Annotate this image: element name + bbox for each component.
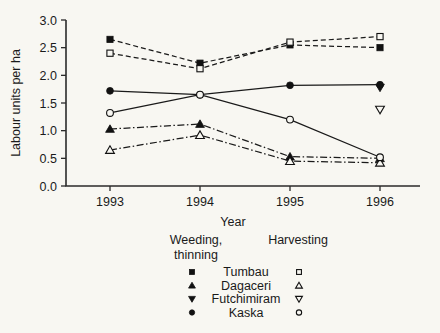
marker-circle-filled — [107, 87, 114, 94]
y-tick-label: 2.0 — [40, 69, 57, 83]
legend-group-harvesting: Harvesting — [268, 233, 328, 247]
legend-group-weeding-line2: thinning — [174, 248, 218, 262]
x-tick-label: 1993 — [96, 195, 124, 209]
series-tumbau-weeding — [107, 36, 383, 66]
x-tick-label: 1995 — [276, 195, 304, 209]
legend-label-futchimiram: Futchimiram — [212, 292, 281, 306]
marker-square-open — [377, 34, 383, 40]
legend-row: Dagaceri — [189, 279, 303, 293]
marker-circle-open — [287, 116, 294, 123]
chart-container: 0.00.51.01.52.02.53.01993199419951996Yea… — [0, 0, 440, 333]
series-path — [110, 124, 380, 158]
legend-row: Tumbau — [190, 265, 302, 279]
marker-triangle-up-open — [296, 282, 303, 288]
y-tick-label: 0.0 — [40, 180, 57, 194]
marker-triangle-down-open — [376, 106, 385, 114]
marker-circle-open — [296, 310, 301, 315]
series-path — [110, 135, 380, 163]
legend-group-weeding-line1: Weeding, — [170, 233, 223, 247]
series-path — [110, 85, 380, 95]
labour-units-line-chart: 0.00.51.01.52.02.53.01993199419951996Yea… — [0, 0, 440, 333]
series-layer — [106, 34, 385, 167]
marker-circle-filled — [287, 82, 294, 89]
legend: Weeding,thinningHarvestingTumbauDagaceri… — [170, 233, 328, 320]
marker-square-open — [297, 270, 302, 275]
series-path — [110, 37, 380, 69]
x-axis-title: Year — [220, 215, 245, 229]
marker-triangle-down-filled — [189, 296, 196, 302]
series-tumbau-harvesting — [107, 34, 383, 72]
legend-label-tumbau: Tumbau — [223, 265, 268, 279]
marker-circle-filled — [189, 310, 194, 315]
y-axis-title: Labour units per ha — [9, 49, 23, 157]
axes: 0.00.51.01.52.02.53.01993199419951996Yea… — [9, 14, 420, 230]
marker-square-open — [197, 66, 203, 72]
marker-circle-open — [107, 110, 114, 117]
legend-row: Futchimiram — [189, 292, 303, 306]
y-tick-label: 1.0 — [40, 124, 57, 138]
series-futchimiram-harvesting — [376, 106, 385, 114]
marker-circle-open — [377, 154, 384, 161]
marker-square-filled — [107, 36, 113, 42]
y-tick-label: 0.5 — [40, 152, 57, 166]
x-tick-label: 1996 — [366, 195, 394, 209]
series-kaska-harvesting — [107, 91, 384, 160]
y-tick-label: 3.0 — [40, 14, 57, 28]
marker-square-open — [107, 50, 113, 56]
series-kaska-weeding — [107, 81, 384, 98]
legend-label-kaska: Kaska — [229, 306, 264, 320]
y-tick-label: 1.5 — [40, 97, 57, 111]
marker-triangle-up-filled — [189, 282, 196, 288]
marker-circle-open — [197, 91, 204, 98]
series-dagaceri-harvesting — [106, 131, 385, 166]
marker-square-open — [287, 39, 293, 45]
legend-row: Kaska — [189, 306, 301, 320]
legend-label-dagaceri: Dagaceri — [221, 279, 271, 293]
marker-circle-filled — [377, 81, 384, 88]
marker-triangle-down-open — [296, 296, 303, 302]
marker-square-filled — [377, 45, 383, 51]
series-dagaceri-weeding — [106, 120, 385, 162]
y-tick-label: 2.5 — [40, 41, 57, 55]
marker-triangle-up-open — [196, 131, 205, 139]
marker-square-filled — [190, 270, 195, 275]
axis-lines — [66, 20, 420, 186]
x-tick-label: 1994 — [186, 195, 214, 209]
